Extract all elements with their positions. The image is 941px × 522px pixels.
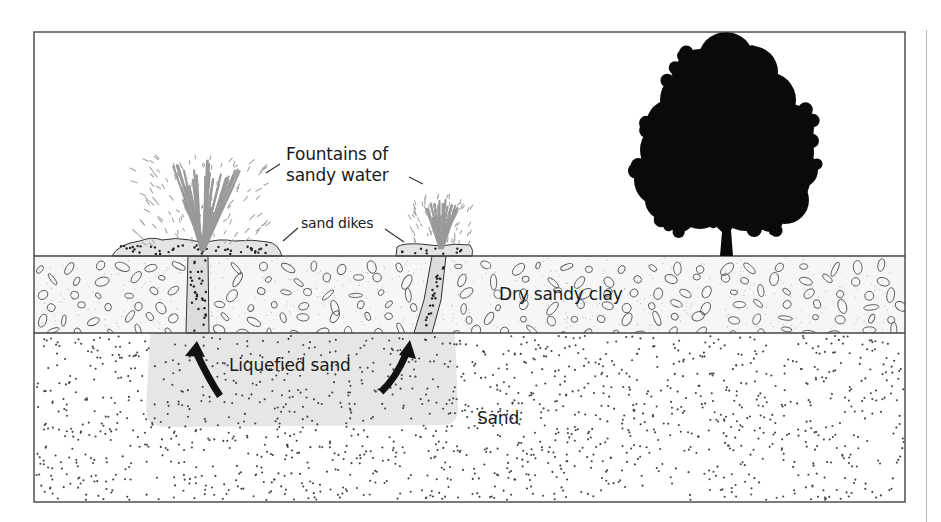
label-sand-dikes: sand dikes (301, 216, 373, 231)
label-sand: Sand (477, 409, 519, 428)
label-dry-sandy-clay: Dry sandy clay (499, 285, 623, 304)
dry-sandy-clay-layer (34, 256, 905, 333)
diagram-canvas (0, 0, 941, 522)
label-fountains-line2: sandy water (286, 166, 389, 185)
label-liquefied-sand: Liquefied sand (229, 356, 351, 375)
page-margin-rule (926, 30, 927, 522)
liquefaction-diagram: Fountains of sandy water sand dikes Dry … (0, 0, 941, 522)
label-fountains-line1: Fountains of (286, 145, 388, 164)
